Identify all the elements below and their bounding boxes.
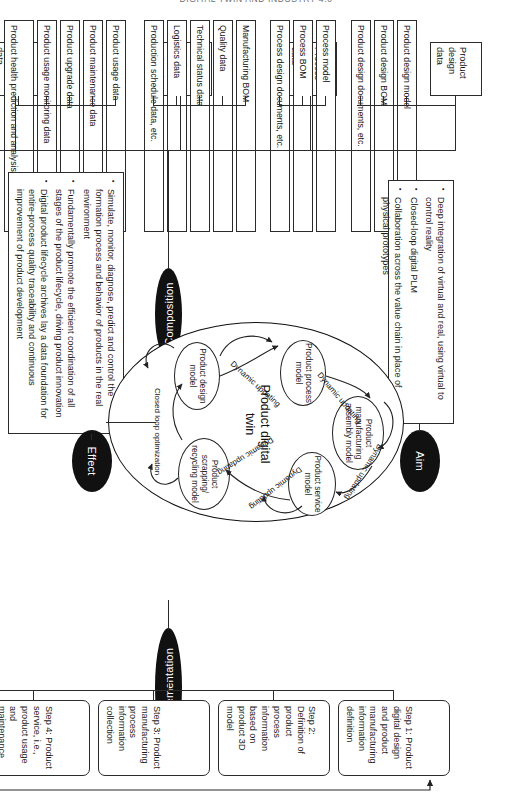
effect-bullet: Fundamentally promote the efficient coor… (53, 180, 77, 426)
connector (310, 96, 311, 151)
label-effect: Effect (72, 430, 112, 492)
connector-aim-panel (419, 424, 420, 432)
implementation-feedback-loop (362, 0, 512, 300)
connector (168, 680, 169, 691)
figure-canvas: Product design data Product design model… (0, 0, 512, 802)
connector (153, 96, 154, 106)
connector (180, 96, 181, 151)
leaf-quality-data: Quality data (213, 20, 233, 232)
connector (16, 105, 116, 106)
effect-bullet: Digital product lifecycle archives lay a… (14, 180, 51, 426)
connector (325, 96, 326, 106)
step-box-4: Step 4: Product service, i.e., product u… (0, 700, 90, 776)
connector (154, 105, 246, 106)
leaf-process-model: Process model (316, 20, 336, 232)
leaf-production-schedule-data: Production schedule data, etc. (144, 20, 164, 232)
connector (153, 690, 154, 701)
connector (279, 96, 280, 106)
step-box-3: Step 3: Product manufacturing process in… (98, 700, 210, 776)
figure-canvas-rotated: Product design data Product design model… (0, 0, 512, 802)
connector (46, 96, 47, 106)
connector-effect-panel (91, 434, 92, 440)
connector-implementation-stem (168, 600, 169, 630)
panel-effect: Simulate, monitor, diagnose, predict and… (8, 172, 124, 434)
connector (33, 690, 34, 701)
connector (245, 96, 246, 106)
connector (176, 96, 177, 106)
connector (199, 96, 200, 106)
leaf-process-design-documents: Process design documents, etc. (270, 20, 290, 232)
connector (302, 96, 303, 106)
edge-label-closed-loop-optimization: Closed loop optimization (153, 388, 162, 475)
step-box-2: Step 2: Definition of product process in… (218, 700, 330, 776)
connector (222, 96, 223, 106)
connector (280, 105, 326, 106)
connector (92, 96, 93, 106)
connector (18, 96, 19, 106)
leaf-technical-status-data: Technical status data (190, 20, 210, 232)
connector (69, 96, 70, 106)
connector (115, 96, 116, 106)
connector-composition-stem (168, 150, 169, 268)
connector (273, 690, 274, 701)
node-product-design-model: Product design model (174, 342, 220, 410)
leaf-manufacturing-bom: Manufacturing BOM (236, 20, 256, 232)
connector (393, 690, 394, 701)
connector-implementation-spine (0, 690, 394, 691)
connector (360, 96, 361, 106)
step-box-1: Step 1: Product digital design and produ… (338, 700, 450, 776)
connector (15, 96, 16, 151)
effect-bullet: Simulate, monitor, diagnose, predict and… (80, 180, 117, 426)
label-aim: Aim (400, 430, 440, 492)
leaf-logistics-data: Logistics data (167, 20, 187, 232)
node-product-service-model: Product service model (288, 452, 336, 516)
connector-composition-to-twin (106, 422, 156, 423)
